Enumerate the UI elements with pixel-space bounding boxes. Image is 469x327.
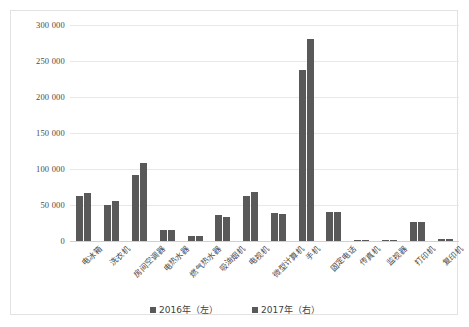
- x-axis-tick-cell: 电热水器: [153, 243, 181, 301]
- bar-group: [70, 25, 98, 241]
- x-axis-tick-cell: 传真机: [348, 243, 376, 301]
- bar: [112, 201, 119, 241]
- x-axis-tick-label: 复印机: [440, 243, 465, 268]
- bar: [418, 222, 425, 241]
- legend-label: 2016年（左）: [159, 303, 218, 316]
- bar-group: [348, 25, 376, 241]
- bar-group: [292, 25, 320, 241]
- bar: [354, 240, 361, 241]
- x-axis-tick-cell: 电视机: [237, 243, 265, 301]
- y-axis-tick-label: 150 000: [36, 128, 65, 138]
- bar: [382, 240, 389, 241]
- bar: [251, 192, 258, 241]
- bar: [104, 205, 111, 241]
- legend-item[interactable]: 2017年（右）: [252, 303, 320, 316]
- bar-group: [237, 25, 265, 241]
- plot-area: 300 000250 000200 000150 000100 00050 00…: [70, 25, 459, 241]
- x-axis-tick-cell: 洗衣机: [98, 243, 126, 301]
- x-axis-tick-cell: 微型计算机: [264, 243, 292, 301]
- y-axis-tick-label: 100 000: [36, 164, 65, 174]
- bar: [326, 212, 333, 241]
- bar: [362, 240, 369, 241]
- bar-group: [98, 25, 126, 241]
- x-axis-tick-cell: 打印机: [403, 243, 431, 301]
- x-axis-tick-cell: 房间空调器: [126, 243, 154, 301]
- bar: [140, 163, 147, 241]
- bar: [168, 230, 175, 241]
- bar-group: [264, 25, 292, 241]
- bar: [271, 213, 278, 241]
- bar: [243, 196, 250, 241]
- bar: [334, 212, 341, 241]
- bar-group: [126, 25, 154, 241]
- bar: [76, 196, 83, 241]
- legend-item[interactable]: 2016年（左）: [150, 303, 218, 316]
- y-axis-tick-label: 50 000: [40, 200, 65, 210]
- bar: [390, 240, 397, 241]
- y-axis-tick-label: 200 000: [36, 92, 65, 102]
- x-axis-tick-cell: 固定电话: [320, 243, 348, 301]
- bar: [188, 236, 195, 241]
- x-axis-tick-cell: 吸油烟机: [209, 243, 237, 301]
- bar: [410, 222, 417, 241]
- x-axis-tick-cell: 电冰箱: [70, 243, 98, 301]
- bar-group: [181, 25, 209, 241]
- bar: [196, 236, 203, 241]
- bar: [299, 70, 306, 241]
- x-axis-tick-cell: 手机: [292, 243, 320, 301]
- bar: [223, 217, 230, 241]
- bar: [84, 193, 91, 241]
- legend-label: 2017年（右）: [261, 303, 320, 316]
- bar-group: [431, 25, 459, 241]
- x-axis-tick-cell: 复印机: [431, 243, 459, 301]
- bar: [132, 175, 139, 241]
- x-axis-tick-cell: 燃气热水器: [181, 243, 209, 301]
- legend-swatch-icon: [252, 307, 258, 313]
- y-axis-tick-label: 0: [61, 236, 65, 246]
- bar: [215, 215, 222, 241]
- x-axis-tick-labels: 电冰箱洗衣机房间空调器电热水器燃气热水器吸油烟机电视机微型计算机手机固定电话传真…: [70, 243, 459, 301]
- legend-swatch-icon: [150, 307, 156, 313]
- bar: [307, 39, 314, 241]
- bar: [438, 239, 445, 241]
- bar-groups: [70, 25, 459, 241]
- chart-frame: 300 000250 000200 000150 000100 00050 00…: [10, 10, 458, 315]
- y-axis-tick-label: 300 000: [36, 20, 65, 30]
- bar-group: [209, 25, 237, 241]
- bar: [279, 214, 286, 241]
- bar-group: [376, 25, 404, 241]
- x-axis-tick-cell: 监视器: [376, 243, 404, 301]
- bar-group: [320, 25, 348, 241]
- bar-group: [403, 25, 431, 241]
- bar: [160, 230, 167, 241]
- y-axis-tick-label: 250 000: [36, 56, 65, 66]
- bar-group: [153, 25, 181, 241]
- bar: [446, 239, 453, 241]
- chart-legend: 2016年（左）2017年（右）: [11, 303, 459, 316]
